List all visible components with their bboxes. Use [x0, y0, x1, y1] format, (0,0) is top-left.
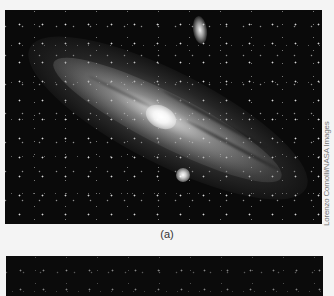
background-stars: [6, 256, 323, 296]
starfield-photo-panel-b: [6, 256, 323, 296]
galaxy-photo-panel-a: [5, 10, 322, 224]
companion-galaxy-lower: [176, 168, 190, 182]
panel-a-label: (a): [0, 228, 334, 240]
photo-credit: Lorenzo Comolli/NASA Images: [322, 122, 332, 226]
